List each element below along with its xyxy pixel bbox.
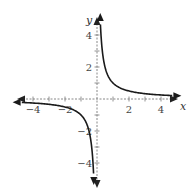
x-tick-label: 2 bbox=[126, 104, 132, 115]
x-tick-label: 4 bbox=[158, 104, 164, 115]
curve-arrow-right-icon bbox=[173, 92, 181, 99]
graph-canvas: −4−22442−2−4 x y bbox=[0, 0, 189, 193]
curve-right-branch bbox=[100, 25, 172, 96]
y-tick-label: −4 bbox=[77, 158, 92, 169]
curve-arrow-up-icon bbox=[97, 13, 104, 21]
y-tick-label: 4 bbox=[86, 30, 92, 41]
y-axis-label: y bbox=[85, 14, 93, 27]
x-axis-label: x bbox=[180, 100, 187, 113]
y-tick-label: 2 bbox=[86, 62, 92, 73]
x-tick-label: −4 bbox=[26, 104, 41, 115]
curve-arrow-left-icon bbox=[13, 99, 21, 106]
